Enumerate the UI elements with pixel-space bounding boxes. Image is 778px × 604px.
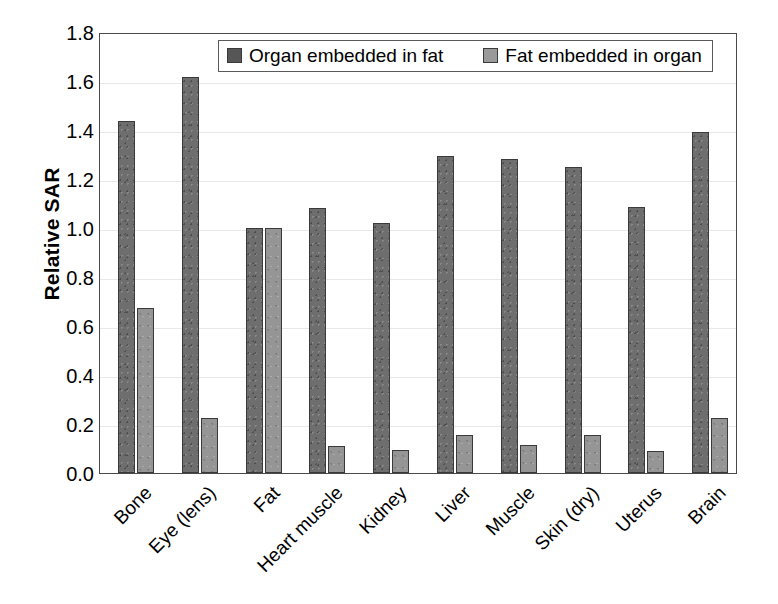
bar[interactable] <box>373 223 390 473</box>
y-tick-label: 1.8 <box>38 22 94 45</box>
y-tick-label: 0.6 <box>38 316 94 339</box>
bar-group <box>182 34 218 473</box>
x-tick-label: Liver <box>431 482 476 527</box>
bar[interactable] <box>309 208 326 473</box>
bar[interactable] <box>647 451 664 473</box>
bar[interactable] <box>520 445 537 473</box>
x-tick-label: Fat <box>249 482 284 517</box>
bar[interactable] <box>201 418 218 473</box>
x-tick-label: Eye (lens) <box>144 482 220 558</box>
y-tick-label: 1.0 <box>38 218 94 241</box>
bar-group <box>309 34 345 473</box>
bar[interactable] <box>565 167 582 473</box>
bar[interactable] <box>628 207 645 473</box>
bar-group <box>628 34 664 473</box>
bar-group <box>565 34 601 473</box>
legend-entry[interactable]: Organ embedded in fat <box>227 46 443 65</box>
bar[interactable] <box>456 435 473 473</box>
y-tick-label: 0.0 <box>38 463 94 486</box>
legend-entry[interactable]: Fat embedded in organ <box>483 46 701 65</box>
y-axis-tick-labels: 1.81.61.41.21.00.80.60.40.20.0 <box>38 33 94 474</box>
x-tick-label: Bone <box>110 482 157 529</box>
legend-label: Organ embedded in fat <box>249 46 443 65</box>
bar[interactable] <box>182 77 199 473</box>
bar-group <box>246 34 282 473</box>
x-tick-label: Kidney <box>355 482 412 539</box>
bar[interactable] <box>246 228 263 473</box>
bars-layer <box>100 34 736 473</box>
bar[interactable] <box>437 156 454 473</box>
legend-swatch-icon <box>227 48 242 63</box>
bar-group <box>437 34 473 473</box>
bar[interactable] <box>137 308 154 473</box>
bar[interactable] <box>328 446 345 473</box>
x-tick-label: Brain <box>684 482 731 529</box>
bar-group <box>118 34 154 473</box>
bar[interactable] <box>392 450 409 473</box>
bar[interactable] <box>584 435 601 473</box>
legend-swatch-icon <box>483 48 498 63</box>
y-tick-label: 1.6 <box>38 71 94 94</box>
chart-legend: Organ embedded in fatFat embedded in org… <box>218 40 713 72</box>
bar[interactable] <box>265 228 282 473</box>
y-tick-label: 1.4 <box>38 120 94 143</box>
bar-group <box>692 34 728 473</box>
y-tick-label: 0.8 <box>38 267 94 290</box>
bar[interactable] <box>118 121 135 473</box>
bar[interactable] <box>711 418 728 473</box>
y-tick-label: 0.4 <box>38 365 94 388</box>
bar[interactable] <box>692 132 709 473</box>
bar-group <box>373 34 409 473</box>
y-tick-label: 0.2 <box>38 414 94 437</box>
bar[interactable] <box>501 159 518 473</box>
bar-group <box>501 34 537 473</box>
x-axis-tick-labels: BoneEye (lens)FatHeart muscleKidneyLiver… <box>99 474 737 604</box>
bar-chart-figure: Relative SAR 1.81.61.41.21.00.80.60.40.2… <box>0 0 778 604</box>
y-tick-label: 1.2 <box>38 169 94 192</box>
x-tick-label: Uterus <box>612 482 667 537</box>
x-tick-label: Muscle <box>481 482 539 540</box>
x-tick-label: Skin (dry) <box>530 482 603 555</box>
plot-area <box>99 33 737 474</box>
legend-label: Fat embedded in organ <box>505 46 701 65</box>
